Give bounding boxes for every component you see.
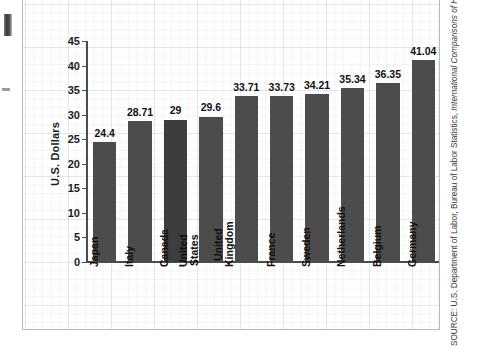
bar-value-label: 29.6 <box>201 102 221 113</box>
source-title: International Comparisons of Hourly Comp… <box>450 0 459 111</box>
x-axis-category-label: Belgium <box>371 226 382 267</box>
x-axis-category-label: Japan <box>88 237 99 267</box>
y-axis-tick-label: 0 <box>74 257 80 268</box>
y-axis-tick-label: 15 <box>68 183 80 194</box>
bar[interactable] <box>128 121 151 262</box>
y-axis-title: U.S. Dollars <box>49 122 61 186</box>
bar-value-label: 28.71 <box>127 107 153 118</box>
bar-group[interactable]: 33.73France <box>270 41 293 262</box>
bar-group[interactable]: 36.35Belgium <box>376 41 399 262</box>
bar-value-label: 35.34 <box>339 74 365 85</box>
bar-group[interactable]: 28.71Italy <box>128 41 151 262</box>
y-axis-tick-label: 5 <box>74 232 80 243</box>
x-axis-category-label: Germany <box>407 221 418 267</box>
x-axis-category-label: France <box>265 233 276 267</box>
bar[interactable] <box>235 96 258 262</box>
scan-artifact <box>4 14 12 36</box>
x-axis-category-label: Netherlands <box>336 206 347 267</box>
x-axis-category-label: United Kingdom <box>213 222 235 268</box>
x-axis-category-label: Sweden <box>301 227 312 267</box>
bar-series: 24.4Japan28.71Italy29Canada29.6United St… <box>87 41 440 262</box>
source-prefix: SOURCE: U.S. Department of Labor, Bureau… <box>450 111 459 346</box>
bar-value-label: 33.71 <box>233 82 259 93</box>
bar-group[interactable]: 35.34Netherlands <box>341 41 364 262</box>
y-axis-tick-label: 30 <box>68 109 80 120</box>
bar-value-label: 41.04 <box>410 46 436 57</box>
y-axis-tick-label: 45 <box>68 36 80 47</box>
y-axis-tick-label: 10 <box>68 207 80 218</box>
scan-artifact <box>2 88 10 91</box>
bar-value-label: 36.35 <box>375 69 401 80</box>
x-axis-category-label: Canada <box>159 229 170 267</box>
x-axis-category-label: United States <box>178 234 200 267</box>
bar-group[interactable]: 29Canada <box>164 41 187 262</box>
bar-value-label: 33.73 <box>269 82 295 93</box>
bar-group[interactable]: 33.71United Kingdom <box>235 41 258 262</box>
bar-group[interactable]: 41.04Germany <box>412 41 435 262</box>
bar-value-label: 29 <box>170 105 182 116</box>
y-axis-tick-label: 25 <box>68 134 80 145</box>
y-axis-tick-label: 40 <box>68 60 80 71</box>
plot-area: 051015202530354045 24.4Japan28.71Italy29… <box>87 41 440 262</box>
y-axis-tick <box>82 262 87 263</box>
bar-value-label: 34.21 <box>304 80 330 91</box>
bar-group[interactable]: 24.4Japan <box>93 41 116 262</box>
y-axis-tick-label: 35 <box>68 85 80 96</box>
y-axis-tick-label: 20 <box>68 158 80 169</box>
bar-value-label: 24.4 <box>94 128 114 139</box>
bar-group[interactable]: 34.21Sweden <box>305 41 328 262</box>
x-axis-category-label: Italy <box>124 246 135 267</box>
source-note: SOURCE: U.S. Department of Labor, Bureau… <box>450 6 461 346</box>
bar-chart: U.S. Dollars 051015202530354045 24.4Japa… <box>22 0 440 330</box>
